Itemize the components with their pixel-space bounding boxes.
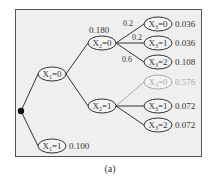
tree-node-label: X1=0 [42, 69, 62, 80]
edge-probability-label: 0.2 [123, 19, 133, 28]
node-probability-value: 0.036 [175, 19, 196, 29]
node-probability-value: 0.100 [69, 141, 90, 151]
tree-node-label: X3=2 [148, 57, 167, 68]
root-node-dot [18, 108, 24, 114]
node-probability-value: 0.036 [175, 38, 196, 48]
tree-edge [21, 74, 38, 111]
node-probability-value: 0.108 [175, 57, 196, 67]
figure-caption: (a) [0, 163, 220, 174]
tree-edge [116, 82, 144, 106]
probability-tree: 0.20.20.6X1=0X1=10.100X2=00.180X2=1X3=00… [0, 0, 220, 182]
tree-node-label: X3=0 [148, 77, 168, 88]
edge-probability-label: 0.6 [122, 55, 132, 64]
tree-edge [66, 43, 88, 74]
node-probability-value: 0.576 [175, 77, 196, 87]
edge-probability-label: 0.2 [132, 33, 142, 42]
tree-node-label: X3=2 [148, 120, 167, 131]
tree-edge [66, 74, 88, 106]
tree-node-label: X2=0 [92, 38, 112, 49]
node-probability-value: 0.072 [175, 101, 195, 111]
node-probability-value: 0.072 [175, 120, 195, 130]
tree-node-label: X3=0 [148, 19, 168, 30]
tree-edge [21, 111, 38, 146]
node-marginal-label: 0.180 [89, 25, 110, 35]
tree-edge [116, 106, 144, 125]
tree-node-label: X3=1 [148, 38, 167, 49]
tree-node-label: X2=1 [92, 101, 111, 112]
tree-node-label: X3=1 [148, 101, 167, 112]
tree-node-label: X1=1 [42, 141, 61, 152]
